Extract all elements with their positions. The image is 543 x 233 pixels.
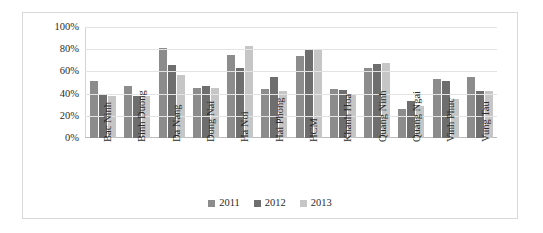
bar bbox=[433, 79, 441, 138]
legend-swatch bbox=[208, 200, 215, 207]
gridline bbox=[85, 49, 497, 50]
x-axis-tick-label: Quang Ninh bbox=[378, 90, 389, 142]
y-axis-tick-label: 60% bbox=[33, 66, 79, 77]
bar bbox=[467, 77, 475, 138]
chart-legend: 201120122013 bbox=[23, 198, 517, 209]
legend-swatch bbox=[300, 200, 307, 207]
x-axis-label-cell: Vung Tau bbox=[464, 140, 498, 202]
x-axis-tick-label: Hai Phong bbox=[275, 97, 286, 142]
x-axis-label-cell: Quang Ninh bbox=[361, 140, 395, 202]
chart-frame: 0%20%40%60%80%100% Bac NinhBinh DuongDa … bbox=[22, 12, 518, 219]
x-axis-label-cell: Khanh Hoa bbox=[326, 140, 360, 202]
bar bbox=[90, 81, 98, 138]
bar bbox=[364, 68, 372, 138]
x-axis-tick-label: Da Nang bbox=[172, 104, 183, 142]
x-axis-label-cell: Binh Duong bbox=[120, 140, 154, 202]
x-axis-label-cell: Bac Ninh bbox=[86, 140, 120, 202]
x-axis-tick-label: Ha Noi bbox=[240, 111, 251, 142]
x-axis-tick-label: Khanh Hoa bbox=[343, 94, 354, 142]
y-axis-tick-label: 100% bbox=[33, 22, 79, 33]
legend-label: 2011 bbox=[219, 198, 240, 209]
x-axis-tick-label: Quang Ngai bbox=[412, 91, 423, 142]
y-axis: 0%20%40%60%80%100% bbox=[31, 27, 79, 138]
bar bbox=[330, 89, 338, 138]
x-axis-tick-label: Binh Duong bbox=[137, 90, 148, 142]
y-axis-tick-label: 0% bbox=[33, 133, 79, 144]
x-axis-tick-label: Vung Tau bbox=[481, 101, 492, 142]
x-axis-label-cell: Hai Phong bbox=[258, 140, 292, 202]
legend-item[interactable]: 2011 bbox=[208, 198, 240, 209]
bar bbox=[227, 55, 235, 138]
x-axis-label-cell: Quang Ngai bbox=[395, 140, 429, 202]
bar-groups bbox=[86, 27, 497, 138]
gridline bbox=[85, 71, 497, 72]
legend-item[interactable]: 2012 bbox=[254, 198, 286, 209]
x-axis-label-cell: Ha Noi bbox=[223, 140, 257, 202]
x-axis-tick-label: HCM bbox=[309, 118, 320, 142]
x-axis-label-cell: Dong Nai bbox=[189, 140, 223, 202]
bar bbox=[398, 109, 406, 138]
x-axis-tick-label: Bac Ninh bbox=[103, 102, 114, 142]
x-axis-label-cell: Da Nang bbox=[155, 140, 189, 202]
y-axis-tick-label: 20% bbox=[33, 111, 79, 122]
bar bbox=[193, 88, 201, 138]
x-axis-label-cell: Vinh Phuc bbox=[429, 140, 463, 202]
legend-swatch bbox=[254, 200, 261, 207]
legend-label: 2013 bbox=[311, 198, 332, 209]
x-axis-tick-label: Vinh Phuc bbox=[446, 98, 457, 142]
gridline bbox=[85, 27, 497, 28]
legend-label: 2012 bbox=[265, 198, 286, 209]
y-axis-tick-label: 80% bbox=[33, 44, 79, 55]
x-axis-tick-label: Dong Nai bbox=[206, 101, 217, 142]
y-axis-tick-label: 40% bbox=[33, 88, 79, 99]
x-axis-labels: Bac NinhBinh DuongDa NangDong NaiHa NoiH… bbox=[86, 140, 498, 202]
bar bbox=[296, 56, 304, 138]
bar bbox=[261, 89, 269, 138]
legend-item[interactable]: 2013 bbox=[300, 198, 332, 209]
x-axis-label-cell: HCM bbox=[292, 140, 326, 202]
